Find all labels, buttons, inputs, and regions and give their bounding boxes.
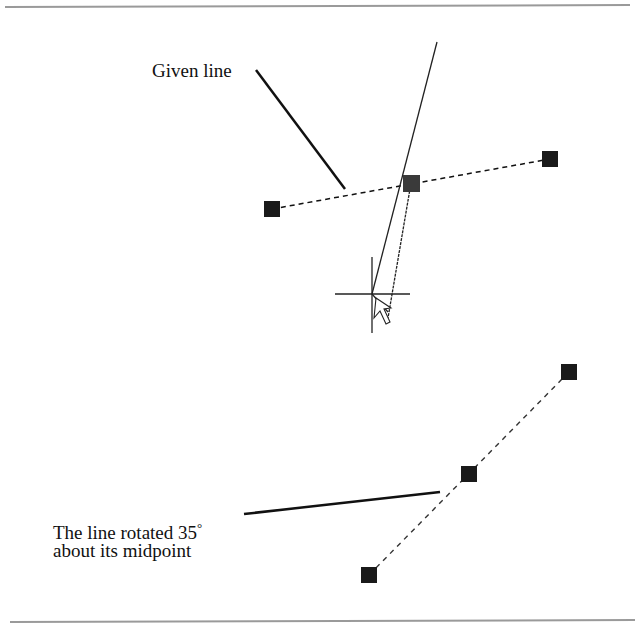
grip-start[interactable] [264, 201, 280, 217]
rotation-preview-line [388, 183, 411, 318]
rotated-grip-end[interactable] [561, 364, 577, 380]
bottom-rule [10, 620, 635, 622]
given-line-label: Given line [152, 59, 232, 82]
grip-midpoint-active[interactable] [403, 175, 420, 192]
rotated-grip-start[interactable] [361, 567, 377, 583]
top-rule [5, 5, 630, 7]
degree-symbol: ° [197, 520, 202, 535]
crosshair-cursor-icon [335, 257, 410, 333]
grip-end[interactable] [542, 151, 558, 167]
rotated-line-leader [244, 492, 440, 514]
rotated-line-label-line2: about its midpoint [53, 539, 191, 562]
rotation-reference-line [372, 42, 437, 294]
rotated-grip-midpoint[interactable] [461, 466, 477, 482]
pointer-cursor-icon [374, 298, 391, 324]
given-line-leader [256, 70, 345, 189]
